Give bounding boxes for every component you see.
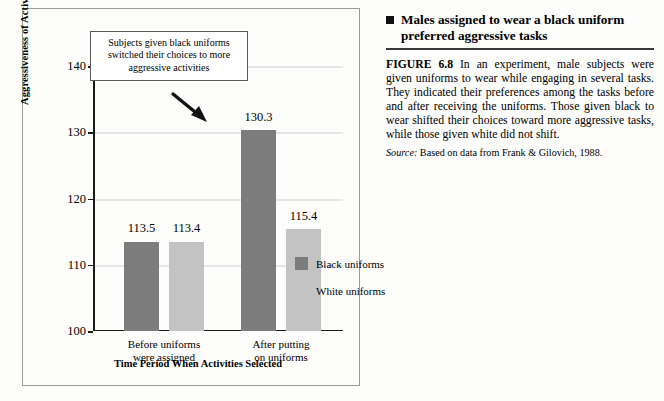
legend-label-white: White uniforms [316,285,385,297]
heading-divider [386,48,654,50]
square-bullet-icon [386,16,394,24]
source-label: Source: [386,147,417,158]
legend-item-black[interactable]: Black uniforms [295,257,385,270]
bar-label-before-white: 113.4 [173,221,201,236]
chart-plot-wrapper: Aggressiveness of Activities Chosen 100 … [23,9,361,387]
gridline-120 [93,199,343,201]
source-text: Based on data from Frank & Gilovich, 198… [420,147,603,158]
annotation-arrow-icon [169,91,213,125]
category-label-after-line1: After putting [252,338,309,351]
figure-page: Aggressiveness of Activities Chosen 100 … [0,0,664,401]
y-axis-title: Aggressiveness of Activities Chosen [19,0,30,105]
y-tick-label-110: 110 [68,259,86,272]
y-tick-label-120: 120 [67,192,86,205]
annotation-callout: Subjects given black uniforms switched t… [90,31,248,81]
chart-legend: Black uniforms White uniforms [295,257,385,311]
bar-before-white[interactable] [169,242,204,331]
y-tick-label-130: 130 [67,126,86,139]
sidebar-heading-text: Males assigned to wear a black uniform p… [401,12,654,43]
y-tick-120 [88,199,93,201]
bar-before-black[interactable] [124,242,159,331]
bar-label-after-white: 115.4 [290,209,318,224]
y-tick-130 [88,132,93,134]
legend-swatch-black-icon [295,257,308,270]
figure-number: FIGURE 6.8 [386,58,453,71]
y-tick-label-140: 140 [67,60,86,73]
legend-item-white[interactable]: White uniforms [295,284,385,297]
category-label-before-line1: Before uniforms [128,338,200,351]
y-axis-line [93,66,95,331]
figure-caption: FIGURE 6.8 In an experiment, male subjec… [386,58,654,143]
y-tick-110 [88,265,93,267]
y-tick-100 [88,331,93,333]
figure-source: Source: Based on data from Frank & Gilov… [386,147,654,160]
bar-label-before-black: 113.5 [128,221,156,236]
x-axis-title: Time Period When Activities Selected [114,358,282,369]
legend-label-black: Black uniforms [316,258,384,270]
gridline-130 [93,132,343,134]
legend-swatch-white-icon [295,284,308,297]
bar-after-black[interactable] [241,130,276,331]
figure-sidebar: Males assigned to wear a black uniform p… [386,12,654,159]
chart-panel: Aggressiveness of Activities Chosen 100 … [22,8,360,386]
bar-label-after-black: 130.3 [244,110,272,125]
sidebar-heading: Males assigned to wear a black uniform p… [386,12,654,43]
y-tick-label-100: 100 [67,325,86,338]
